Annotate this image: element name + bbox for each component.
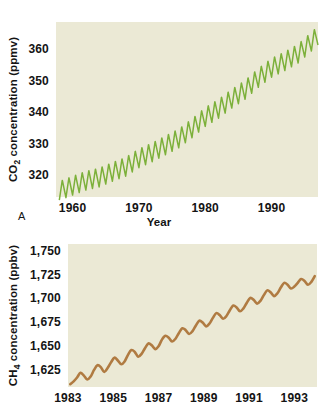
co2-chart-svg: 3203303403503601960197019801990YearCO2 c… (0, 0, 331, 232)
co2-y-tick-label: 330 (28, 137, 49, 151)
co2-x-tick-label: 1990 (258, 201, 286, 215)
co2-y-axis-title: CO2 concentration (ppmv) (7, 37, 22, 182)
ch4-y-tick-label: 1,625 (30, 363, 61, 377)
co2-x-tick-label: 1960 (59, 201, 87, 215)
ch4-x-tick-label: 1991 (235, 391, 263, 405)
co2-y-tick-label: 350 (28, 74, 49, 88)
ch4-y-tick-label: 1,675 (30, 315, 61, 329)
ch4-x-tick-label: 1993 (281, 391, 309, 405)
co2-x-tick-label: 1970 (125, 201, 153, 215)
ch4-x-tick-label: 1983 (54, 391, 82, 405)
ch4-y-axis-title: CH4 concentration (ppbv) (7, 245, 22, 386)
co2-x-axis-title: Year (147, 216, 172, 228)
ch4-chart-svg: 1,6251,6501,6751,7001,7251,7501983198519… (0, 232, 331, 414)
co2-y-tick-label: 320 (28, 168, 49, 182)
co2-chart-panel: 3203303403503601960197019801990YearCO2 c… (0, 0, 331, 232)
ch4-y-tick-label: 1,700 (30, 291, 61, 305)
greenhouse-gas-figure: 3203303403503601960197019801990YearCO2 c… (0, 0, 331, 414)
svg-text:CO2 concentration (ppmv): CO2 concentration (ppmv) (7, 37, 22, 182)
ch4-y-tick-label: 1,750 (30, 244, 61, 258)
co2-x-tick-label: 1980 (191, 201, 219, 215)
ch4-chart-panel: 1,6251,6501,6751,7001,7251,7501983198519… (0, 232, 331, 414)
ch4-x-tick-label: 1987 (145, 391, 173, 405)
ch4-y-tick-label: 1,725 (30, 268, 61, 282)
ch4-plot-area (68, 244, 317, 387)
ch4-x-tick-label: 1985 (100, 391, 128, 405)
ch4-y-tick-label: 1,650 (30, 339, 61, 353)
svg-text:CH4 concentration (ppbv): CH4 concentration (ppbv) (7, 245, 22, 386)
co2-y-tick-label: 360 (28, 42, 49, 56)
co2-y-tick-label: 340 (28, 105, 49, 119)
ch4-x-tick-label: 1989 (190, 391, 218, 405)
panel-letter-a: A (18, 210, 26, 222)
